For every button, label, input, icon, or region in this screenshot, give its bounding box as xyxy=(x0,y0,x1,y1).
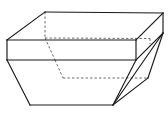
geometry-figure-canvas xyxy=(0,0,168,116)
background-rect xyxy=(0,0,168,116)
solid-wireframe-svg xyxy=(0,0,168,116)
